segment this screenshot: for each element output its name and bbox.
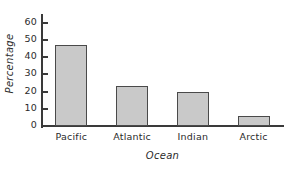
y-tick-label: 50 [15,34,37,44]
bar-pacific [55,45,87,126]
y-tick-label-wrap: 20 [0,86,37,96]
y-tick-label: 40 [15,51,37,61]
bar-arctic [238,116,270,126]
y-tick-label-wrap: 40 [0,51,37,61]
y-tick-label: 10 [15,103,37,113]
y-tick-label: 60 [15,17,37,27]
plot-area [41,14,284,126]
y-tick-label: 0 [15,120,37,130]
bar-chart: Percentage 0102030405060 PacificAtlantic… [0,0,294,171]
y-tick-label: 30 [15,68,37,78]
y-tick-label-wrap: 0 [0,120,37,130]
y-tick-label-wrap: 30 [0,68,37,78]
y-tick-label-wrap: 50 [0,34,37,44]
bar-atlantic [116,86,148,126]
x-axis-title: Ocean [41,150,284,161]
bar-indian [177,92,209,126]
y-tick-label-wrap: 10 [0,103,37,113]
category-label-arctic: Arctic [214,131,294,143]
y-tick-label-wrap: 60 [0,17,37,27]
y-tick-label: 20 [15,86,37,96]
